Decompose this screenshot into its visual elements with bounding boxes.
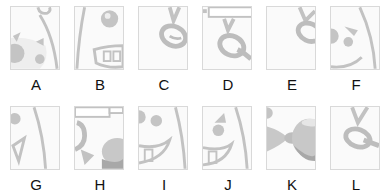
option-tile-c[interactable] (138, 6, 188, 70)
option-label: K (266, 176, 318, 193)
chain-fragment-icon (75, 107, 123, 169)
face-fragment-icon (75, 7, 123, 69)
face-fragment-icon (203, 107, 251, 169)
face-fragment-icon (11, 107, 59, 169)
chain-fragment-icon (203, 7, 251, 69)
face-fragment-icon (11, 7, 59, 69)
option-label: D (202, 76, 254, 93)
option-tile-b[interactable] (74, 6, 124, 70)
chain-fragment-icon (267, 7, 315, 69)
option-tile-i[interactable] (138, 106, 188, 170)
option-tile-e[interactable] (266, 6, 316, 70)
chain-fragment-icon (331, 107, 379, 169)
option-tile-l[interactable] (330, 106, 380, 170)
option-tile-g[interactable] (10, 106, 60, 170)
option-label: A (10, 76, 62, 93)
option-label: G (10, 176, 62, 193)
option-label: H (74, 176, 126, 193)
option-label: F (330, 76, 382, 93)
option-tile-d[interactable] (202, 6, 252, 70)
option-tile-j[interactable] (202, 106, 252, 170)
face-fragment-icon (331, 7, 379, 69)
option-label: B (74, 76, 126, 93)
chain-fragment-icon (139, 7, 187, 69)
option-tile-k[interactable] (266, 106, 316, 170)
face-fragment-icon (139, 107, 187, 169)
option-label: J (202, 176, 254, 193)
option-label: I (138, 176, 190, 193)
option-label: E (266, 76, 318, 93)
chain-fragment-icon (267, 107, 315, 169)
option-tile-h[interactable] (74, 106, 124, 170)
option-tile-f[interactable] (330, 6, 380, 70)
option-tile-a[interactable] (10, 6, 60, 70)
option-label: L (330, 176, 382, 193)
option-label: C (138, 76, 190, 93)
